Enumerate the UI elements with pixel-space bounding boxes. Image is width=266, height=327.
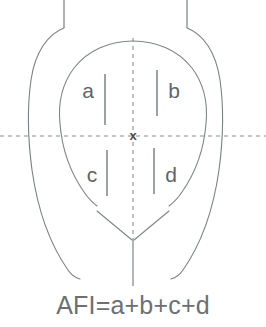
uterus-outline-right <box>171 28 223 279</box>
quadrant-label-a: a <box>82 79 94 102</box>
amniotic-sac-apex-left <box>97 211 132 240</box>
afi-diagram-figure: x a b c d AFI=a+b+c+d <box>0 0 266 327</box>
quadrant-label-b: b <box>168 79 180 102</box>
center-intersection-marker: x <box>129 128 137 143</box>
afi-diagram-canvas: x a b c d AFI=a+b+c+d <box>0 0 266 327</box>
afi-formula-caption: AFI=a+b+c+d <box>56 291 210 319</box>
amniotic-sac-apex-right <box>134 211 169 240</box>
quadrant-label-d: d <box>165 163 177 186</box>
quadrant-label-c: c <box>87 163 98 186</box>
uterus-outline-left <box>28 28 80 279</box>
